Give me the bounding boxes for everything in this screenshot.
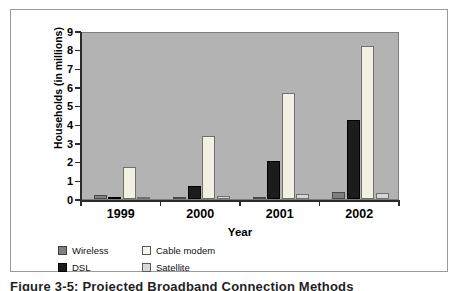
y-axis-line	[80, 32, 82, 201]
figure-frame: Households (in millions) 0123456789 Year…	[10, 9, 448, 272]
bar-dsl-2000	[188, 186, 201, 199]
bar-satellite-1999	[137, 197, 150, 199]
x-axis-tick	[398, 200, 400, 206]
legend-label-cable-modem: Cable modem	[156, 246, 215, 256]
bar-dsl-2001	[267, 161, 280, 199]
bar-cable-modem-2000	[202, 136, 215, 199]
y-axis-tick-label: 3	[47, 139, 73, 150]
y-axis-tick	[75, 106, 81, 108]
x-axis-label-2002: 2002	[320, 208, 400, 221]
y-axis-tick-label: 7	[47, 64, 73, 75]
bar-chart: Households (in millions) 0123456789 Year…	[11, 10, 447, 271]
figure-caption: Figure 3-5: Projected Broadband Connecti…	[10, 279, 440, 291]
bar-cable-modem-2001	[282, 93, 295, 199]
y-axis-tick	[75, 50, 81, 52]
bar-wireless-2000	[173, 197, 186, 199]
y-axis-tick	[75, 31, 81, 33]
x-axis-label-2000: 2000	[161, 208, 241, 221]
legend-swatch-cable-modem-icon	[142, 246, 151, 255]
bar-dsl-1999	[108, 197, 121, 199]
plot-area	[81, 32, 399, 200]
legend-item-dsl: DSL	[58, 263, 142, 273]
y-axis-title-container: Households (in millions)	[29, 32, 43, 200]
bar-cable-modem-2002	[361, 46, 374, 199]
legend-swatch-dsl-icon	[58, 263, 67, 272]
legend-label-wireless: Wireless	[72, 246, 108, 256]
legend-item-wireless: Wireless	[58, 246, 142, 256]
y-axis-tick-label: 2	[47, 157, 73, 168]
bar-dsl-2002	[347, 120, 360, 199]
y-axis-tick	[75, 162, 81, 164]
x-axis-tick	[239, 200, 241, 206]
bar-satellite-2000	[217, 196, 230, 199]
legend-label-dsl: DSL	[72, 263, 90, 273]
y-axis-tick	[75, 125, 81, 127]
chart-legend: Wireless Cable modem DSL Satellite	[58, 242, 318, 276]
y-axis-tick-label: 0	[47, 195, 73, 206]
bar-wireless-2001	[253, 197, 266, 199]
bar-cable-modem-1999	[123, 167, 136, 199]
y-axis-ticks: 0123456789	[43, 10, 73, 271]
y-axis-tick	[75, 181, 81, 183]
x-axis-label-2001: 2001	[240, 208, 320, 221]
x-axis-tick	[80, 200, 82, 206]
bar-wireless-1999	[94, 195, 107, 199]
y-axis-tick-label: 5	[47, 101, 73, 112]
y-axis-tick-label: 1	[47, 176, 73, 187]
y-axis-tick	[75, 87, 81, 89]
legend-label-satellite: Satellite	[156, 263, 190, 273]
x-axis-title: Year	[81, 226, 399, 238]
y-axis-tick	[75, 143, 81, 145]
y-axis-tick-label: 4	[47, 120, 73, 131]
legend-swatch-satellite-icon	[142, 263, 151, 272]
plot-inner	[82, 33, 398, 199]
legend-row: DSL Satellite	[58, 259, 318, 276]
y-axis-tick-label: 8	[47, 45, 73, 56]
bar-satellite-2002	[376, 193, 389, 199]
legend-item-cable-modem: Cable modem	[142, 246, 215, 256]
legend-swatch-wireless-icon	[58, 246, 67, 255]
bar-wireless-2002	[332, 192, 345, 199]
legend-item-satellite: Satellite	[142, 263, 190, 273]
bar-satellite-2001	[296, 194, 309, 199]
y-axis-tick-label: 9	[47, 27, 73, 38]
x-axis-tick	[319, 200, 321, 206]
x-axis-label-1999: 1999	[81, 208, 161, 221]
x-axis-tick	[160, 200, 162, 206]
y-axis-tick	[75, 69, 81, 71]
y-axis-tick-label: 6	[47, 83, 73, 94]
legend-row: Wireless Cable modem	[58, 242, 318, 259]
